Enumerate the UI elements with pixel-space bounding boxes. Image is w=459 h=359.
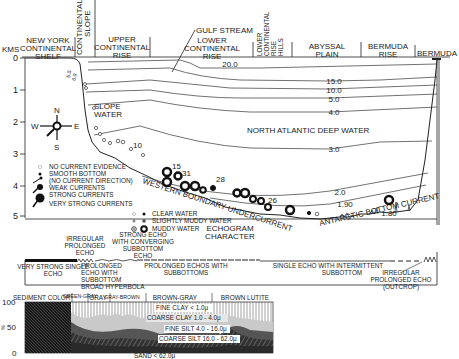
echo-outcrop-2: PROLONGED ECHO	[370, 276, 431, 283]
legend-smooth-bottom: SMOOTH BOTTOM	[49, 170, 106, 177]
region-bermuda-rise-2: RISE	[379, 50, 398, 59]
echo-outcrop-3: (OUTCROP)	[383, 283, 419, 291]
echo-converging-2: WITH CONVERGING	[112, 238, 174, 245]
depth-tick-1: 1	[13, 85, 18, 95]
echo-converging-4: ECHO	[134, 252, 152, 259]
fraction-sand: SAND < 62.0μ	[134, 352, 175, 359]
compass-w: W	[31, 122, 39, 131]
diagram-canvas: NEW YORK CONTINENTAL SHELF CONTINENTAL S…	[0, 0, 459, 359]
station-31: 31	[182, 169, 191, 178]
sediment-brown-gray: BROWN-GRAY	[153, 294, 198, 301]
echo-outcrop-1: IRREGULAR	[382, 269, 420, 276]
echo-irregular-3: ECHO	[76, 249, 94, 256]
isotherm-20: 20.0	[222, 60, 238, 69]
depth-tick-3: 3	[13, 149, 18, 159]
sediment-section: SEDIMENT COLOR GREEN-GRAY GRAY GRAY-BROW…	[0, 293, 273, 359]
echo-prolonged-1: PROLONGED ECHOS WITH	[144, 262, 228, 269]
compass-s: S	[54, 143, 59, 152]
depth-tick-2: 2	[13, 117, 18, 127]
fraction-fine-silt: FINE SILT 4.0 - 16.0μ	[165, 325, 227, 333]
fraction-coarse-clay: COARSE CLAY 1.0 - 4.0μ	[147, 314, 221, 322]
region-upper-rise-3: RISE	[113, 51, 132, 60]
pct-axis-label: %	[0, 325, 6, 330]
slope-labels: 5.0 6.0	[65, 70, 78, 81]
compass-e: E	[74, 122, 79, 131]
slope-water-2: WATER	[94, 110, 122, 119]
echo-very-strong-2: ECHO	[44, 270, 62, 277]
region-hills-3: RISE	[270, 41, 277, 56]
echo-single-1: SINGLE ECHO WITH INTERMITTENT	[273, 262, 384, 269]
echo-very-strong-1: VERY STRONG SINGLE	[17, 263, 89, 270]
echo-hyperbola-3: SUBBOTTOM	[81, 276, 121, 283]
region-hills-2: CONTINENTAL	[263, 11, 270, 56]
legend-slightly-muddy: SLIGHTLY MUDDY WATER	[152, 217, 232, 224]
station-26: 26	[268, 196, 277, 205]
isotherm-2: 2.0	[334, 188, 346, 197]
echo-irregular-1: IRREGULAR	[66, 235, 104, 242]
echo-converging-1: STRONG ECHO	[119, 231, 167, 238]
gulf-stream-label: GULF STREAM	[196, 26, 253, 35]
echo-hyperbola-2: ECHO WITH	[81, 269, 118, 276]
legend-currents: NO CURRENT EVIDENCE SMOOTH BOTTOM (NO CU…	[33, 163, 133, 207]
region-hills-4: HILLS	[277, 38, 284, 56]
echo-single-2: SUBBOTTOM	[322, 269, 362, 276]
depth-tick-0: 0	[13, 53, 18, 63]
isotherm-10: 10.0	[326, 86, 342, 95]
fraction-fine-clay: FINE CLAY < 1.0μ	[156, 304, 209, 312]
region-slope-2: SLOPE	[83, 10, 92, 37]
pct-tick-50: 50	[7, 323, 16, 332]
region-labels: NEW YORK CONTINENTAL SHELF CONTINENTAL S…	[20, 0, 458, 61]
legend-very-strong: VERY STRONG CURRENTS	[49, 200, 133, 207]
legend-weak: WEAK CURRENTS	[49, 184, 105, 191]
echogram-section: ECHOGRAM CHARACTER IRREGULAR PROLONGED E…	[17, 224, 437, 291]
legend-clear-water: CLEAR WATER	[152, 210, 198, 217]
region-hills-1: LOWER	[256, 32, 263, 56]
station-28: 28	[216, 175, 225, 184]
legend-no-current: NO CURRENT EVIDENCE	[49, 163, 126, 170]
pct-tick-0: 0	[12, 349, 17, 358]
compass-n: N	[54, 106, 60, 115]
isotherm-15: 15.0	[326, 77, 342, 86]
pct-tick-100: 100	[2, 298, 16, 307]
echo-converging-3: SUBBOTTOM	[123, 245, 163, 252]
isotherm-1-90: 1.90	[337, 200, 353, 209]
region-ny-shelf-3: SHELF	[35, 52, 61, 61]
echo-hyperbola-4: BROAD HYPERBOLA	[81, 283, 145, 290]
isotherm-5: 5.0	[328, 95, 340, 104]
echo-irregular-2: PROLONGED	[65, 242, 106, 249]
station-10: 10	[133, 141, 142, 150]
legend-strong: STRONG CURRENTS	[49, 191, 114, 198]
depth-tick-4: 4	[13, 181, 18, 191]
echo-prolonged-2: SUBBOTTOMS	[164, 269, 209, 276]
isotherm-4: 4.0	[328, 108, 340, 117]
isotherm-3: 3.0	[328, 145, 340, 154]
depth-tick-5: 5	[13, 211, 18, 221]
echogram-title-2: CHARACTER	[205, 232, 255, 241]
nadw-label: NORTH ATLANTIC DEEP WATER	[247, 126, 369, 135]
echo-hyperbola-1: PROLONGED	[81, 262, 122, 269]
sediment-gray-brown: GRAY-BROWN	[104, 294, 140, 300]
slope-label-6: 6.0	[71, 73, 78, 81]
station-15: 15	[172, 162, 181, 171]
region-lower-rise-3: RISE	[203, 52, 222, 61]
region-bermuda: BERMUDA	[417, 49, 458, 58]
depth-axis: KMS 0 1 2 3 4 5	[2, 45, 25, 221]
sediment-brown-lutite: BROWN LUTITE	[221, 294, 269, 301]
region-abyssal-2: PLAIN	[315, 50, 338, 59]
fraction-coarse-silt: COARSE SILT 16.0 - 62.0μ	[159, 335, 237, 343]
current-stations	[84, 83, 394, 216]
compass-icon: N S E W	[31, 106, 79, 152]
